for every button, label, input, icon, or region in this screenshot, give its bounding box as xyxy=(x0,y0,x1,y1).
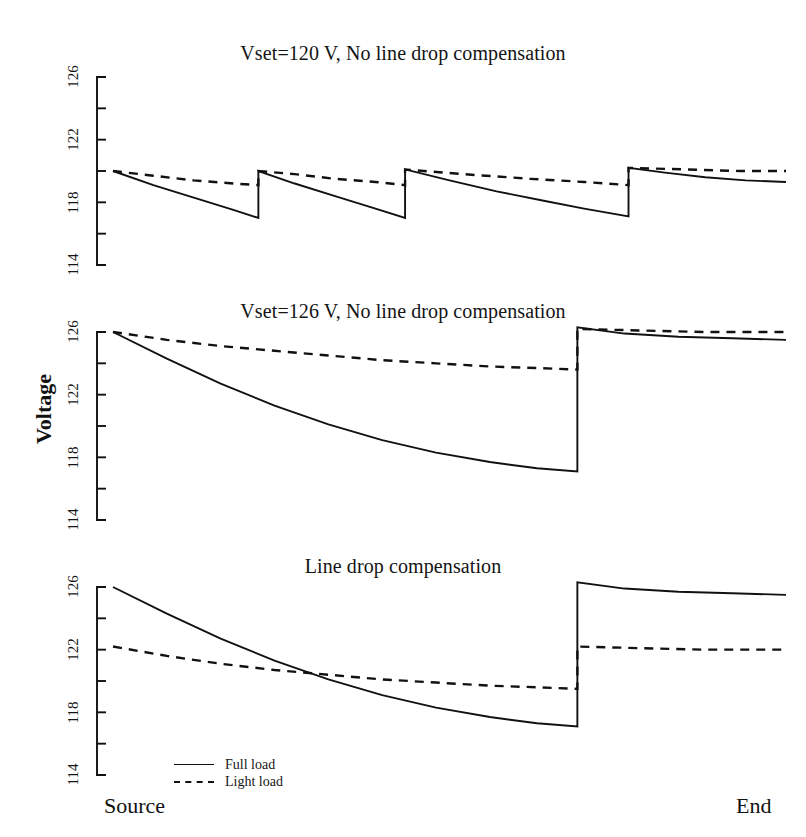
ytick-126-p2: 126 xyxy=(65,315,82,349)
legend-label-light-load: Light load xyxy=(225,773,283,790)
series-full-load xyxy=(113,582,786,726)
series-full-load xyxy=(113,327,786,471)
legend-label-full-load: Full load xyxy=(225,756,275,773)
voltage-profile-figure: Voltage Vset=120 V, No line drop compens… xyxy=(0,0,806,837)
x-axis-label-source: Source xyxy=(104,793,165,819)
ytick-118-p1: 118 xyxy=(65,186,82,220)
y-axis xyxy=(97,332,106,520)
y-axis xyxy=(97,77,106,265)
ytick-126-p3: 126 xyxy=(65,570,82,604)
legend-solid-line-icon xyxy=(172,759,216,771)
ytick-122-p1: 122 xyxy=(65,123,82,157)
legend: Full load Light load xyxy=(172,756,283,790)
ytick-122-p3: 122 xyxy=(65,633,82,667)
legend-item-full-load: Full load xyxy=(172,756,283,773)
ytick-118-p3: 118 xyxy=(65,696,82,730)
series-light-load xyxy=(113,647,786,689)
series-light-load xyxy=(113,168,786,185)
series-full-load xyxy=(113,168,786,218)
ytick-122-p2: 122 xyxy=(65,378,82,412)
panel-3-plot xyxy=(0,510,806,810)
series-light-load xyxy=(113,329,786,370)
legend-item-light-load: Light load xyxy=(172,773,283,790)
ytick-118-p2: 118 xyxy=(65,441,82,475)
x-axis-label-end: End xyxy=(736,793,771,819)
y-axis xyxy=(97,587,106,775)
ytick-126-p1: 126 xyxy=(65,60,82,94)
ytick-114-p3: 114 xyxy=(65,758,82,792)
legend-dashed-line-icon xyxy=(172,776,216,788)
